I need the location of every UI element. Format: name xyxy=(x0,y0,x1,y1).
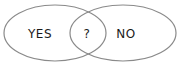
no-label: NO xyxy=(116,27,135,41)
yes-set-ellipse xyxy=(4,5,106,61)
intersection-label: ? xyxy=(84,27,91,41)
yes-label: YES xyxy=(28,27,52,41)
